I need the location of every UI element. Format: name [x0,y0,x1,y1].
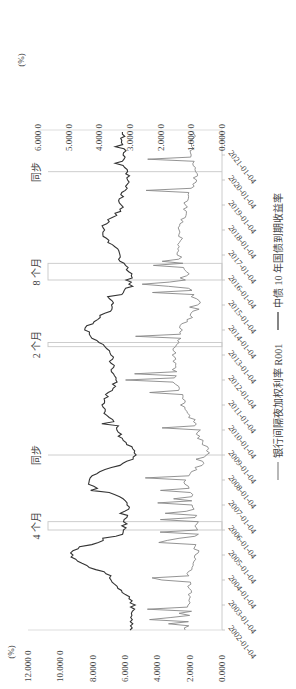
right-axis-tick-label: 3.000 0 [125,124,135,152]
annotation-box [48,263,222,280]
annotation-label: 同步 [31,445,42,465]
left-axis-tick-label: 0.000 0 [217,655,227,683]
left-axis-tick-label: 4.000 0 [152,655,162,683]
legend-label-r001: 银行间隔夜加权利率 R001 [272,344,284,458]
legend-label-10y: 中债 10 年国债到期收益率 [272,193,284,308]
left-axis-tick-label: 12.000 0 [23,650,33,682]
annotations: 4 个月同步2 个月8 个月同步 [31,162,222,540]
left-axis-tick-label: 2.000 0 [185,655,195,683]
right-axis-tick-label: 6.000 0 [33,124,43,152]
chart-container: 4 个月同步2 个月8 个月同步 0.000 02.000 04.000 06.… [0,0,296,689]
annotation-label: 8 个月 [31,258,42,286]
right-axis-tick-label: 2.000 0 [156,124,166,152]
series-lines [71,132,210,630]
dual-axis-line-chart: 4 个月同步2 个月8 个月同步 0.000 02.000 04.000 06.… [0,0,296,689]
left-axis-tick-label: 10.000 0 [55,650,65,682]
series-line-r001 [126,132,210,630]
annotation-label: 2 个月 [31,331,42,359]
annotation-label: 同步 [31,162,42,182]
right-axis-tick-label: 1.000 0 [186,124,196,152]
series-line-10y-yield [71,132,137,630]
legend: 银行间隔夜加权利率 R001中债 10 年国债到期收益率 [272,193,284,480]
annotation-label: 4 个月 [31,512,42,540]
left-axis-unit: (%) [6,645,16,659]
annotation-box [48,343,222,347]
right-axis-tick-label: 0.000 0 [217,124,227,152]
right-axis-tick-label: 5.000 0 [64,124,74,152]
right-axis-tick-label: 4.000 0 [94,124,104,152]
left-axis-tick-label: 6.000 0 [120,655,130,683]
left-axis-tick-label: 8.000 0 [88,655,98,683]
right-axis-unit: (%) [16,53,26,67]
axis-labels: 0.000 02.000 04.000 06.000 08.000 010.00… [6,53,259,682]
annotation-box [48,522,222,530]
